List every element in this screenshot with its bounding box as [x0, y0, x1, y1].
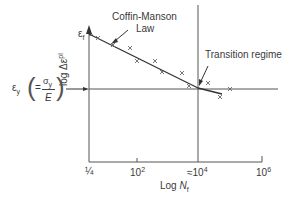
x-tick-label-10-6: 106 [256, 166, 271, 178]
coffin-manson-label-line2: Law [136, 23, 154, 34]
transition-pointer-line [201, 66, 208, 81]
coffin-pointer-line [115, 30, 128, 41]
x-tick-label-10-2: 102 [130, 166, 145, 178]
ey-numerator: σy [43, 76, 52, 88]
x-tick-10-2-exp: 2 [141, 166, 145, 173]
ey-sub: y [16, 88, 20, 95]
x-axis-label-sub: f [187, 186, 189, 193]
x-tick-10-6-base: 10 [256, 167, 267, 178]
x-axis-label: Log Nf [160, 180, 189, 193]
ef-sub: f [82, 34, 84, 41]
ey-num-sub: y [49, 81, 53, 88]
coffin-manson-diagram: log Δεpl εf εy ( = σy E ) Coffin-Manson … [0, 0, 300, 203]
ey-label: εy [12, 82, 20, 95]
y-axis-arrow-icon [86, 25, 92, 34]
data-points [96, 36, 232, 99]
coffin-manson-line [89, 34, 198, 88]
x-axis-label-prefix: Log [160, 180, 179, 191]
x-tick-10-6-exp: 6 [267, 166, 271, 173]
coffin-manson-label-line1: Coffin-Manson [112, 11, 177, 22]
transition-regime-label: Transition regime [205, 49, 282, 60]
ey-fraction-bar [42, 89, 55, 90]
transition-arrow-icon [199, 79, 203, 86]
x-tick-label-10-4: ≈104 [187, 166, 208, 178]
x-tick-10-4-base: ≈10 [187, 167, 204, 178]
ey-denominator: E [45, 92, 52, 103]
x-tick-label-quarter: ¼ [85, 166, 93, 177]
ey-right-paren: ) [56, 72, 65, 103]
x-axis-label-var: N [179, 180, 186, 191]
ey-arrow-icon [83, 87, 89, 91]
x-tick-10-2-base: 10 [130, 167, 141, 178]
ef-label: εf [78, 28, 84, 41]
y-axis-label-sup: pl [57, 53, 64, 58]
x-tick-10-4-exp: 4 [204, 166, 208, 173]
ey-equals: = [35, 82, 41, 93]
